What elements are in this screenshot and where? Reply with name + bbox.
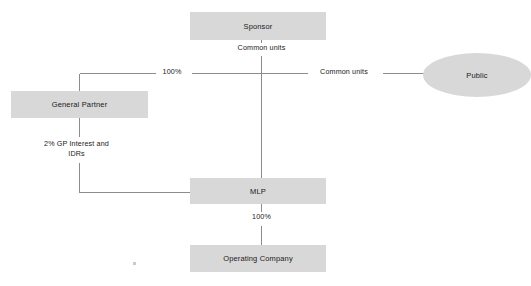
edge-label-mlp-to-operating-company: 100% [245,212,278,224]
node-sponsor-label: Sponsor [244,22,273,31]
scan-artifact-speck [133,262,136,265]
node-mlp[interactable]: MLP [190,178,326,204]
node-general-partner-label: General Partner [52,100,108,109]
diagram-canvas: Sponsor General Partner MLP Operating Co… [0,0,531,286]
node-public[interactable]: Public [423,53,531,97]
edge-label-general-partner-to-mlp: 2% GP Interest and IDRs [18,139,135,163]
edge-label-public-to-mlp: Common units [308,67,380,79]
edge-label-sponsor-to-mlp: Common units [218,43,305,55]
node-sponsor[interactable]: Sponsor [190,12,326,40]
edge-label-sponsor-to-general-partner: 100% [156,67,188,79]
node-operating-company[interactable]: Operating Company [190,245,326,272]
node-operating-company-label: Operating Company [223,254,293,263]
node-mlp-label: MLP [250,187,266,196]
node-public-label: Public [466,71,487,80]
node-general-partner[interactable]: General Partner [11,91,148,118]
